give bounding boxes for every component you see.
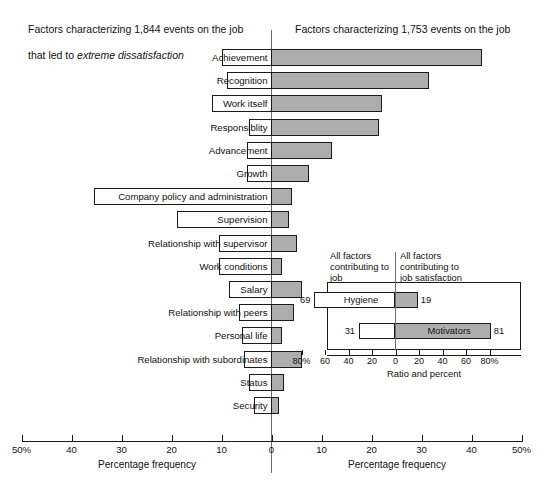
bar-satisfaction [272,374,285,391]
x-axis-tick-label: 30 [416,444,427,455]
bar-satisfaction [272,119,380,136]
chart-row-label: Company policy and administration [0,188,272,205]
inset-axis-tick-label: 80% [480,356,498,366]
x-axis-tick-label: 50% [512,444,531,455]
bar-satisfaction [272,142,332,159]
inset-axis-tick-label: 80% [292,356,310,366]
inset-axis-tick-label: 20 [414,356,424,366]
x-axis-tick [122,435,123,442]
x-axis-tick-label: 20 [366,444,377,455]
x-axis-tick [22,435,23,442]
x-axis-tick-label: 10 [216,444,227,455]
chart-row-label: Personal life [122,327,272,344]
inset-axis-tick [490,350,491,355]
x-axis-tick [372,435,373,442]
bar-satisfaction [272,95,382,112]
x-axis-tick-label: 40 [66,444,77,455]
x-axis-tick-label: 10 [316,444,327,455]
x-axis-tick [422,435,423,442]
inset-axis-tick-label: 20 [367,356,377,366]
inset-axis-tick [349,350,350,355]
chart-row-label: Responsiblity [129,119,272,136]
chart-row-label: Salary [109,281,272,298]
bar-satisfaction [272,188,292,205]
diverging-bar-chart: AchievementRecognitionWork itselfRespons… [0,0,547,486]
bar-satisfaction [272,49,482,66]
chart-row-label: Relationship with supervisor [99,235,272,252]
inset-value-dissatisfaction: 69 [292,292,310,308]
chart-row-label: Relationship with peers [119,304,272,321]
inset-axis-tick-label: 60 [461,356,471,366]
inset-bar-label: Hygiene [320,292,401,308]
x-axis-tick-label: 40 [466,444,477,455]
inset-axis-tick [325,350,326,355]
x-axis-tick [322,435,323,442]
inset-caption-satisfaction: All factors contributing to job satisfac… [400,250,478,283]
inset-axis-tick-label: 60 [320,356,330,366]
chart-row-label: Status [129,374,272,391]
inset-axis-tick [396,350,397,355]
chart-row-label: Work itself [92,95,272,112]
chart-row-label: Recognition [107,72,272,89]
inset-bar-dissatisfaction [359,323,395,339]
bar-satisfaction [272,327,282,344]
bar-satisfaction [272,304,295,321]
x-axis-tick-label: 20 [166,444,177,455]
x-axis-tick [472,435,473,442]
inset-axis-tick-label: 40 [437,356,447,366]
inset-axis-tick-label: 0 [393,356,398,366]
x-axis-tick-label: 30 [116,444,127,455]
x-axis-tick [222,435,223,442]
chart-row-label: Work conditions [99,258,272,275]
bar-satisfaction [272,165,310,182]
x-axis-tick-label: 50% [12,444,31,455]
bar-satisfaction [272,235,297,252]
inset-axis-tick [466,350,467,355]
inset-axis-tick [443,350,444,355]
inset-axis-title: Ratio and percent [387,368,461,379]
inset-axis-tick [372,350,373,355]
inset-value-dissatisfaction: 31 [337,323,355,339]
inset-bar-label: Motivators [402,323,497,339]
inset-value-satisfaction: 19 [421,292,431,308]
chart-row-label: Supervision [57,211,272,228]
axis-title-right: Percentage frequency [348,459,446,470]
x-axis-tick [172,435,173,442]
axis-title-left: Percentage frequency [98,459,196,470]
x-axis-tick-label: 0 [269,444,274,455]
bar-satisfaction [272,72,430,89]
x-axis-tick [72,435,73,442]
chart-row-label: Growth [127,165,272,182]
x-axis-tick [272,435,273,442]
inset-axis-tick-label: 40 [343,356,353,366]
chart-row-label: Advancement [127,142,272,159]
chart-row-label: Relationship with subordinates [124,351,272,368]
x-axis-tick [522,435,523,442]
bar-satisfaction [272,258,282,275]
inset-value-satisfaction: 81 [494,323,504,339]
chart-row-label: Security [134,397,272,414]
inset-axis-tick [302,350,303,355]
chart-row-label: Achievement [102,49,272,66]
bar-satisfaction [272,397,280,414]
bar-satisfaction [272,211,290,228]
inset-axis-tick [419,350,420,355]
